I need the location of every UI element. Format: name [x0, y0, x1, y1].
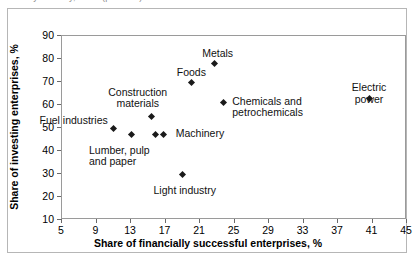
data-point-label: Metals — [202, 48, 233, 60]
x-tick-mark — [96, 219, 97, 223]
x-tick-mark — [303, 219, 304, 223]
data-point — [127, 131, 134, 138]
y-tick-label: 40 — [42, 144, 54, 156]
x-tick-mark — [372, 219, 373, 223]
data-point — [110, 124, 117, 131]
data-point-label: Lumber, pulp and paper — [89, 145, 150, 168]
y-tick-label: 20 — [42, 190, 54, 202]
y-axis-title: Share of investing enterprises, % — [8, 44, 20, 210]
x-tick-label: 37 — [331, 224, 343, 236]
x-tick-mark — [61, 219, 62, 223]
data-point-label: Fuel industries — [39, 115, 107, 127]
y-tick-label: 60 — [42, 98, 54, 110]
x-tick-mark — [234, 219, 235, 223]
x-tick-label: 9 — [93, 224, 99, 236]
x-tick-label: 29 — [262, 224, 274, 236]
y-tick-label: 10 — [42, 213, 54, 225]
data-point-label: Chemicals and petrochemicals — [232, 96, 303, 119]
x-tick-label: 41 — [366, 224, 378, 236]
y-tick-label: 30 — [42, 167, 54, 179]
x-tick-mark — [165, 219, 166, 223]
x-tick-label: 45 — [400, 224, 412, 236]
data-point — [160, 131, 167, 138]
data-point-label: Electric power — [351, 82, 387, 105]
x-tick-mark — [268, 219, 269, 223]
x-axis-title: Share of financially successful enterpri… — [8, 237, 408, 249]
y-tick-label: 90 — [42, 29, 54, 41]
data-point — [220, 99, 227, 106]
data-point — [148, 113, 155, 120]
x-tick-label: 17 — [159, 224, 171, 236]
data-point-label: Light industry — [154, 185, 216, 197]
x-tick-mark — [130, 219, 131, 223]
data-point-label: Construction materials — [108, 87, 167, 110]
x-tick-mark — [199, 219, 200, 223]
data-point — [211, 60, 218, 67]
x-tick-mark — [337, 219, 338, 223]
x-tick-label: 21 — [193, 224, 205, 236]
chart-figure-frame: Share of investing enterprises, % Share … — [7, 8, 407, 253]
clipped-header-text: by industry, 2000 (per cent) — [28, 0, 143, 2]
data-point — [152, 131, 159, 138]
data-point — [188, 78, 195, 85]
data-point-label: Machinery — [176, 128, 224, 140]
data-point-label: Foods — [177, 67, 206, 79]
x-tick-label: 25 — [228, 224, 240, 236]
y-tick-label: 70 — [42, 75, 54, 87]
data-point — [179, 170, 186, 177]
x-tick-mark — [406, 219, 407, 223]
y-tick-label: 80 — [42, 52, 54, 64]
x-tick-label: 33 — [297, 224, 309, 236]
x-tick-label: 13 — [124, 224, 136, 236]
plot-area: Fuel industriesLumber, pulp and paperCon… — [61, 35, 406, 219]
x-tick-label: 5 — [58, 224, 64, 236]
clipped-header-fragment: by industry, 2000 (per cent) — [0, 0, 415, 7]
